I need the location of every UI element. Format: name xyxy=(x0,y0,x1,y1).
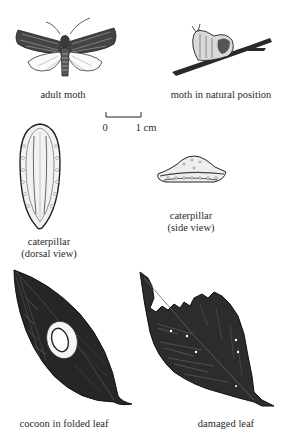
scale-bar-end-label: 1 cm xyxy=(131,122,161,134)
caterpillar-dorsal-illustration xyxy=(16,122,64,232)
cocoon-folded-leaf-illustration xyxy=(10,268,132,414)
damaged-leaf-illustration xyxy=(138,268,286,418)
caption-adult-moth: adult moth xyxy=(22,89,104,101)
caterpillar-side-illustration xyxy=(154,150,228,186)
caption-caterpillar-side-line1: caterpillar xyxy=(150,210,232,222)
caption-cocoon-folded-leaf: cocoon in folded leaf xyxy=(8,418,120,430)
moth-natural-position-illustration xyxy=(170,20,280,80)
scale-bar-start-label: 0 xyxy=(100,122,110,134)
caption-caterpillar-side-line2: (side view) xyxy=(150,222,232,234)
caption-damaged-leaf: damaged leaf xyxy=(186,418,266,430)
adult-moth-illustration xyxy=(10,12,122,80)
scale-bar xyxy=(104,110,144,120)
caption-caterpillar-dorsal-line1: caterpillar xyxy=(4,236,94,248)
caption-moth-natural-position: moth in natural position xyxy=(160,89,282,101)
caption-caterpillar-dorsal-line2: (dorsal view) xyxy=(4,248,94,260)
